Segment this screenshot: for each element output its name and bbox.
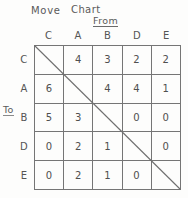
chart-title-word-chart: Chart [71, 4, 100, 15]
cell-C-D: 2 [122, 46, 151, 75]
from-axis-underline [93, 26, 118, 27]
cell-D-A: 2 [64, 132, 93, 161]
cell-C-A: 4 [64, 46, 93, 75]
cell-D-B: 1 [93, 132, 122, 161]
cell-C-B: 3 [93, 46, 122, 75]
to-axis-label: To [3, 104, 14, 116]
from-axis-label: From [93, 15, 118, 27]
cell-B-D: 0 [122, 103, 151, 132]
row-header-column: C A B D E [16, 45, 32, 190]
cell-C-C [35, 46, 64, 75]
from-axis-label-text: From [93, 15, 118, 26]
column-header-1: A [63, 29, 92, 43]
column-header-3: D [122, 29, 151, 43]
cell-D-E: 0 [151, 132, 180, 161]
column-header-4: E [152, 29, 181, 43]
cell-E-E [151, 161, 180, 190]
column-header-0: C [34, 29, 63, 43]
row-header-4: E [16, 161, 32, 190]
cell-E-B: 1 [93, 161, 122, 190]
cell-A-B: 4 [93, 74, 122, 103]
cell-B-C: 5 [35, 103, 64, 132]
cell-E-C: 0 [35, 161, 64, 190]
row-header-0: C [16, 45, 32, 74]
move-chart-matrix: 4 3 2 2 6 4 4 1 5 3 0 0 [34, 45, 181, 190]
cell-B-A: 3 [64, 103, 93, 132]
cell-E-D: 0 [122, 161, 151, 190]
cell-E-A: 2 [64, 161, 93, 190]
matrix-grid-container: 4 3 2 2 6 4 4 1 5 3 0 0 [34, 45, 181, 190]
move-chart-figure: Move Chart From To C A B D E C A B D E 4 [0, 0, 188, 198]
cell-A-A [64, 74, 93, 103]
cell-A-C: 6 [35, 74, 64, 103]
to-axis-label-text: To [3, 104, 14, 115]
cell-A-E: 1 [151, 74, 180, 103]
cell-A-D: 4 [122, 74, 151, 103]
table-row: 6 4 4 1 [35, 74, 181, 103]
row-header-3: D [16, 132, 32, 161]
table-row: 0 2 1 0 [35, 132, 181, 161]
to-axis-underline [3, 115, 14, 116]
cell-B-B [93, 103, 122, 132]
cell-B-E: 0 [151, 103, 180, 132]
column-header-2: B [93, 29, 122, 43]
row-header-1: A [16, 74, 32, 103]
chart-title-word-move: Move [31, 5, 61, 16]
table-row: 0 2 1 0 [35, 161, 181, 190]
cell-C-E: 2 [151, 46, 180, 75]
table-row: 5 3 0 0 [35, 103, 181, 132]
row-header-2: B [16, 103, 32, 132]
table-row: 4 3 2 2 [35, 46, 181, 75]
column-header-row: C A B D E [34, 29, 181, 43]
cell-D-D [122, 132, 151, 161]
cell-D-C: 0 [35, 132, 64, 161]
